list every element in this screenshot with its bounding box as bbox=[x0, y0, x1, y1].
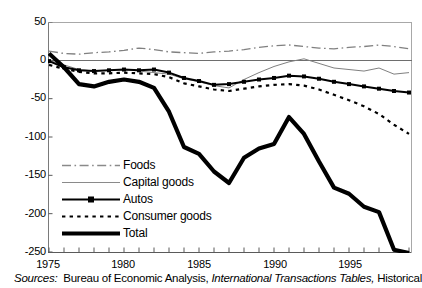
series-line-consumer-goods bbox=[49, 65, 409, 134]
y-tick-label: 0 bbox=[4, 54, 46, 65]
line-key-foods-icon bbox=[60, 157, 122, 174]
x-tick-label: 1985 bbox=[179, 258, 219, 270]
series-marker bbox=[242, 80, 246, 84]
legend-item-capital-goods: Capital goods bbox=[60, 174, 210, 191]
series-marker bbox=[377, 87, 381, 91]
y-tick-label: -100 bbox=[4, 131, 46, 142]
line-key-autos-icon bbox=[60, 191, 122, 208]
series-marker bbox=[257, 78, 261, 82]
series-marker bbox=[212, 83, 216, 87]
source-note: Sources: Bureau of Economic Analysis, In… bbox=[14, 272, 422, 285]
series-line-foods bbox=[49, 45, 409, 54]
legend-item-autos: Autos bbox=[60, 191, 210, 208]
series-marker bbox=[48, 59, 51, 63]
legend-item-foods: Foods bbox=[60, 157, 210, 174]
series-marker bbox=[272, 76, 276, 80]
legend-label: Consumer goods bbox=[123, 210, 212, 223]
y-tick-label: -150 bbox=[4, 169, 46, 180]
x-tick-label: 1975 bbox=[28, 258, 68, 270]
chart-legend: Foods Capital goods Autos bbox=[60, 157, 210, 242]
legend-label: Foods bbox=[123, 159, 155, 172]
source-publication-title: International Transactions Tables, bbox=[211, 272, 374, 284]
series-marker bbox=[197, 79, 201, 83]
source-text-before: Bureau of Economic Analysis, bbox=[63, 272, 208, 284]
line-key-consumer-goods-icon bbox=[60, 208, 122, 225]
series-marker bbox=[302, 74, 306, 78]
y-tick-label: -250 bbox=[4, 246, 46, 257]
series-marker bbox=[287, 74, 291, 78]
series-marker bbox=[152, 68, 156, 72]
series-marker bbox=[392, 89, 396, 93]
y-axis-labels: 50 0 -50 -100 -150 -200 -250 bbox=[0, 0, 46, 288]
x-tick-label: 1980 bbox=[103, 258, 143, 270]
legend-item-consumer-goods: Consumer goods bbox=[60, 208, 210, 225]
legend-label: Capital goods bbox=[123, 176, 194, 189]
legend-item-total: Total bbox=[60, 225, 210, 242]
series-marker bbox=[317, 77, 321, 81]
series-marker bbox=[227, 82, 231, 86]
legend-label: Total bbox=[123, 227, 147, 240]
legend-label: Autos bbox=[123, 193, 153, 206]
series-marker bbox=[407, 91, 411, 95]
series-marker bbox=[347, 82, 351, 86]
y-tick-label: -50 bbox=[4, 92, 46, 103]
x-tick-label: 1995 bbox=[330, 258, 370, 270]
y-tick-label: 50 bbox=[4, 16, 46, 27]
line-key-total-icon bbox=[60, 225, 122, 242]
x-tick-label: 1990 bbox=[255, 258, 295, 270]
series-marker bbox=[362, 84, 366, 88]
line-key-capital-goods-icon bbox=[60, 174, 122, 191]
series-marker bbox=[137, 68, 141, 72]
x-axis-ticks bbox=[49, 248, 409, 253]
series-marker bbox=[182, 76, 186, 80]
series-marker bbox=[167, 71, 171, 75]
series-marker bbox=[332, 80, 336, 84]
series-marker bbox=[122, 68, 126, 72]
series-marker bbox=[107, 68, 111, 72]
x-axis-labels: 1975 1980 1985 1990 1995 bbox=[0, 258, 419, 272]
source-prefix: Sources: bbox=[14, 272, 57, 284]
source-text-after: Historical bbox=[377, 272, 422, 284]
y-tick-label: -200 bbox=[4, 208, 46, 219]
